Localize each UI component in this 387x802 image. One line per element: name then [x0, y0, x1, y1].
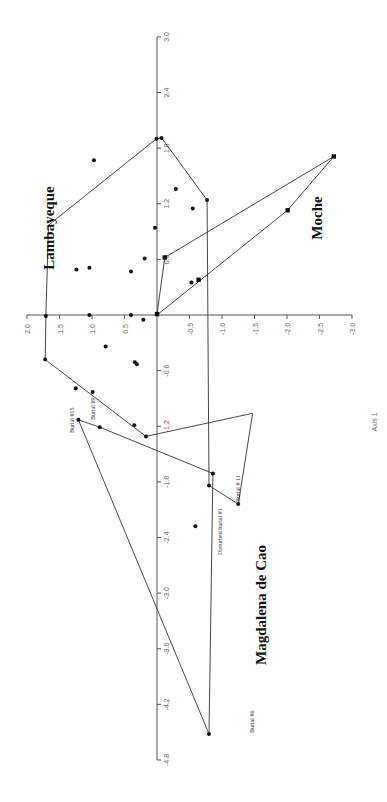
label-burial-15: Burial #15 [69, 408, 75, 434]
point-lambayeque [129, 313, 133, 317]
axis1-tick-label: -1.8 [163, 476, 170, 488]
point-lambayeque [189, 281, 193, 285]
axis1-tick-label: -1.2 [163, 420, 170, 432]
hull-magdalena-de-cao [78, 420, 213, 734]
point-magdalena-de-cao [207, 732, 211, 736]
group-label-magdalena: Magdalena de Cao [253, 545, 269, 665]
axis1-tick-label: 3.0 [163, 32, 170, 42]
point-lambayeque [153, 226, 157, 230]
data-points [43, 136, 336, 736]
group-hulls [45, 138, 334, 734]
point-lambayeque [87, 266, 91, 270]
axis2-tick-label: 0.5 [122, 324, 129, 334]
axis2-tick-label: -2.0 [284, 323, 291, 335]
axis1-tick-label: -4.2 [163, 698, 170, 710]
point-moche [285, 208, 289, 212]
axis1-title: Axis 1 [371, 412, 378, 431]
point-lambayeque [143, 256, 147, 260]
group-label-moche: Moche [309, 196, 325, 240]
point-magdalena-de-cao [98, 425, 102, 429]
axis2-tick-label: -1.5 [252, 323, 259, 335]
axis1-tick-label: -2.4 [163, 531, 170, 543]
axis1-tick-label: 1.2 [163, 199, 170, 209]
point-moche [196, 278, 200, 282]
label-burial-9: Burial #9 [90, 398, 96, 421]
point-lambayeque [135, 362, 139, 366]
point-lambayeque [91, 390, 95, 394]
pca-scatter-chart: 3.02.41.81.20.6-0.6-1.2-1.8-2.4-3.0-3.6-… [0, 0, 387, 802]
axis2-tick-label: 1.0 [89, 324, 96, 334]
point-lambayeque [92, 158, 96, 162]
point-magdalena-de-cao [211, 472, 215, 476]
point-lambayeque [129, 269, 133, 273]
axis2-tick-label: -0.5 [187, 323, 194, 335]
point-magdalena-de-cao [76, 418, 80, 422]
point-moche [163, 255, 167, 259]
hull-lambayeque [45, 138, 252, 504]
axis2-tick-label: -3.0 [349, 323, 356, 335]
axes: 3.02.41.81.20.6-0.6-1.2-1.8-2.4-3.0-3.6-… [24, 32, 356, 766]
point-lambayeque [87, 313, 91, 317]
axis1-tick-label: -3.0 [163, 587, 170, 599]
point-lambayeque [104, 345, 108, 349]
point-lambayeque [205, 198, 209, 202]
axis1-tick-label: -3.6 [163, 643, 170, 655]
point-lambayeque [132, 423, 136, 427]
group-label-lambayeque: Lambayeque [41, 186, 57, 270]
axis2-tick-label: 1.5 [57, 324, 64, 334]
point-moche [332, 154, 336, 158]
label-burial-11: Burial # 11 [235, 475, 241, 502]
point-lambayeque [74, 268, 78, 272]
point-lambayeque [74, 386, 78, 390]
point-lambayeque [141, 318, 145, 322]
axis2-tick-label: -1.0 [219, 323, 226, 335]
point-lambayeque [154, 137, 158, 141]
label-burial-6: Burial #6 [249, 711, 255, 734]
hull-moche [157, 157, 334, 316]
axis1-tick-label: 2.4 [163, 88, 170, 98]
point-magdalena-de-cao [193, 524, 197, 528]
axis1-tick-label: -4.8 [163, 754, 170, 766]
point-lambayeque [207, 484, 211, 488]
point-lambayeque [43, 357, 47, 361]
point-moche [155, 312, 159, 316]
point-lambayeque [144, 434, 148, 438]
point-lambayeque [191, 206, 195, 210]
point-lambayeque [174, 187, 178, 191]
point-lambayeque [44, 314, 48, 318]
axis2-tick-label: -2.5 [317, 323, 324, 335]
axis1-tick-label: -0.6 [163, 364, 170, 376]
axis2-tick-label: 2.0 [24, 324, 31, 334]
point-lambayeque [160, 136, 164, 140]
label-disturbed-burial-1: Disturbed burial #1 [217, 508, 223, 555]
